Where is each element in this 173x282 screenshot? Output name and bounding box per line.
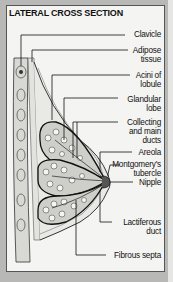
label-lactiferous-duct: Lactiferousduct [123, 218, 161, 236]
label-glandular-lobe: Glandularlobe [127, 95, 161, 113]
label-acini-of-lobule: Acini oflobule [136, 71, 161, 89]
label-collecting-ducts: Collectingand mainducts [127, 118, 161, 145]
label-adipose-tissue: Adiposetissue [133, 46, 161, 64]
label-areola: Areola [139, 148, 161, 157]
label-clavicle: Clavicle [134, 30, 161, 39]
label-montgomerys-tubercle: Montgomery'stubercle [112, 160, 161, 178]
label-fibrous-septa: Fibrous septa [114, 251, 161, 260]
label-nipple: Nipple [139, 178, 161, 187]
